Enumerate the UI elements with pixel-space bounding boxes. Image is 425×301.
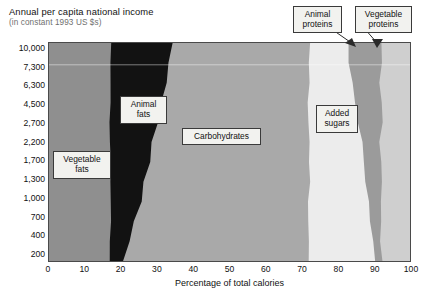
- y-axis-tick: 4,500: [23, 99, 45, 109]
- y-axis-tick: 1,700: [23, 155, 45, 165]
- y-axis-tick: 1,000: [23, 193, 45, 203]
- x-axis-tick: 20: [116, 264, 126, 274]
- x-axis-tick: 0: [46, 264, 51, 274]
- chart-figure: Annual per capita national income (in co…: [0, 0, 425, 301]
- x-axis-tick: 40: [188, 264, 198, 274]
- plot-area: Vegetable fats Animal fats Carbohydrates…: [48, 42, 411, 262]
- x-axis-tick: 10: [80, 264, 90, 274]
- y-axis: 10,0007,3006,3004,5002,7002,2001,7001,30…: [0, 42, 45, 262]
- x-axis-tick: 50: [225, 264, 235, 274]
- y-axis-tick: 6,300: [23, 80, 45, 90]
- y-axis-tick: 400: [31, 230, 45, 240]
- x-axis-tick: 30: [152, 264, 162, 274]
- x-axis-tick: 80: [334, 264, 344, 274]
- y-axis-tick: 7,300: [23, 62, 45, 72]
- band-label-carbohydrates: Carbohydrates: [182, 128, 261, 145]
- x-axis-tick: 100: [404, 264, 418, 274]
- y-axis-tick: 1,300: [23, 174, 45, 184]
- x-axis-tick: 60: [261, 264, 271, 274]
- band-label-animal-fats: Animal fats: [120, 96, 167, 124]
- x-axis: 0102030405060708090100: [48, 264, 411, 278]
- y-axis-tick: 2,700: [23, 118, 45, 128]
- chart-subtitle: (in constant 1993 US $s): [9, 18, 102, 27]
- x-axis-tick: 70: [297, 264, 307, 274]
- x-axis-label: Percentage of total calories: [48, 278, 411, 288]
- y-axis-tick: 10,000: [19, 43, 45, 53]
- chart-title: Annual per capita national income: [9, 6, 154, 17]
- callout-vegetable-proteins: Vegetable proteins: [355, 6, 412, 33]
- y-axis-tick: 700: [31, 212, 45, 222]
- band-label-added-sugars: Added sugars: [316, 105, 358, 133]
- band-label-vegetable-fats: Vegetable fats: [53, 151, 111, 179]
- y-axis-tick: 200: [31, 249, 45, 259]
- callout-animal-proteins: Animal proteins: [293, 6, 342, 33]
- x-axis-tick: 90: [370, 264, 380, 274]
- y-axis-tick: 2,200: [23, 137, 45, 147]
